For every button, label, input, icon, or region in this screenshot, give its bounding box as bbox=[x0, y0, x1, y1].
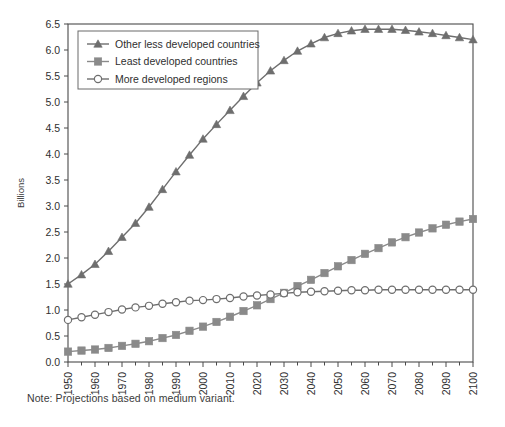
data-point-marker bbox=[226, 294, 233, 301]
data-point-marker bbox=[307, 276, 314, 283]
data-point-marker bbox=[348, 287, 355, 294]
data-point-marker bbox=[132, 304, 139, 311]
data-point-marker bbox=[118, 306, 125, 313]
data-point-marker bbox=[94, 75, 101, 82]
figure-note: Note: Projections based on medium varian… bbox=[27, 392, 235, 404]
data-point-marker bbox=[321, 269, 328, 276]
y-tick-label: 5.0 bbox=[45, 96, 60, 108]
y-tick-label: 3.0 bbox=[45, 200, 60, 212]
data-point-marker bbox=[78, 314, 85, 321]
data-point-marker bbox=[240, 307, 247, 314]
data-point-marker bbox=[91, 311, 98, 318]
y-tick-label: 5.5 bbox=[45, 70, 60, 82]
data-point-marker bbox=[429, 286, 436, 293]
x-tick-label: 2060 bbox=[359, 372, 371, 396]
y-tick-label: 2.5 bbox=[45, 226, 60, 238]
data-point-marker bbox=[388, 286, 395, 293]
data-point-marker bbox=[307, 40, 315, 47]
y-tick-label: 6.0 bbox=[45, 44, 60, 56]
data-point-marker bbox=[186, 297, 193, 304]
data-point-marker bbox=[375, 286, 382, 293]
y-tick-label: 0.5 bbox=[45, 330, 60, 342]
data-point-marker bbox=[199, 297, 206, 304]
y-tick-label: 6.5 bbox=[45, 18, 60, 30]
data-point-marker bbox=[348, 256, 355, 263]
data-point-marker bbox=[402, 234, 409, 241]
y-axis-title: Billions bbox=[15, 178, 26, 208]
data-point-marker bbox=[105, 308, 112, 315]
data-point-marker bbox=[172, 331, 179, 338]
x-tick-label: 2020 bbox=[251, 372, 263, 396]
data-point-marker bbox=[94, 58, 101, 65]
data-point-marker bbox=[64, 348, 71, 355]
data-point-marker bbox=[321, 288, 328, 295]
data-point-marker bbox=[375, 244, 382, 251]
data-point-marker bbox=[199, 323, 206, 330]
x-tick-label: 2030 bbox=[278, 372, 290, 396]
data-point-marker bbox=[253, 292, 260, 299]
series-2 bbox=[64, 215, 476, 355]
series-3 bbox=[64, 286, 476, 323]
data-point-marker bbox=[294, 289, 301, 296]
data-point-marker bbox=[429, 225, 436, 232]
data-point-marker bbox=[240, 293, 247, 300]
data-point-marker bbox=[253, 302, 260, 309]
population-projection-line-chart: 0.00.51.01.52.02.53.03.54.04.55.05.56.06… bbox=[0, 0, 505, 427]
data-point-marker bbox=[456, 286, 463, 293]
data-point-marker bbox=[267, 291, 274, 298]
data-point-marker bbox=[132, 340, 139, 347]
data-point-marker bbox=[64, 316, 71, 323]
data-point-marker bbox=[186, 327, 193, 334]
data-point-marker bbox=[159, 300, 166, 307]
data-point-marker bbox=[307, 288, 314, 295]
data-point-marker bbox=[415, 286, 422, 293]
figure-container: 0.00.51.01.52.02.53.03.54.04.55.05.56.06… bbox=[0, 0, 505, 427]
y-tick-label: 4.5 bbox=[45, 122, 60, 134]
data-point-marker bbox=[361, 287, 368, 294]
data-point-marker bbox=[415, 229, 422, 236]
x-tick-label: 2100 bbox=[467, 372, 479, 396]
data-point-marker bbox=[105, 344, 112, 351]
data-point-marker bbox=[226, 313, 233, 320]
chart-legend: Other less developed countriesLeast deve… bbox=[78, 31, 260, 89]
legend-label: Least developed countries bbox=[115, 55, 238, 67]
data-point-marker bbox=[469, 286, 476, 293]
data-point-marker bbox=[361, 250, 368, 257]
legend-label: More developed regions bbox=[115, 73, 228, 85]
data-point-marker bbox=[469, 215, 476, 222]
series-line bbox=[68, 219, 473, 352]
legend-label: Other less developed countries bbox=[115, 38, 260, 50]
data-point-marker bbox=[388, 239, 395, 246]
y-tick-label: 3.5 bbox=[45, 174, 60, 186]
data-point-marker bbox=[442, 286, 449, 293]
data-point-marker bbox=[402, 286, 409, 293]
data-point-marker bbox=[145, 338, 152, 345]
y-tick-label: 1.0 bbox=[45, 304, 60, 316]
data-point-marker bbox=[213, 318, 220, 325]
y-tick-label: 4.0 bbox=[45, 148, 60, 160]
y-tick-label: 2.0 bbox=[45, 252, 60, 264]
data-point-marker bbox=[145, 302, 152, 309]
data-point-marker bbox=[293, 47, 301, 54]
y-tick-label: 1.5 bbox=[45, 278, 60, 290]
data-point-marker bbox=[442, 221, 449, 228]
data-point-marker bbox=[172, 299, 179, 306]
x-tick-label: 2040 bbox=[305, 372, 317, 396]
x-tick-label: 2070 bbox=[386, 372, 398, 396]
x-tick-label: 2080 bbox=[413, 372, 425, 396]
data-point-marker bbox=[280, 290, 287, 297]
data-point-marker bbox=[78, 347, 85, 354]
data-point-marker bbox=[159, 334, 166, 341]
data-point-marker bbox=[334, 287, 341, 294]
x-tick-label: 2090 bbox=[440, 372, 452, 396]
data-point-marker bbox=[334, 263, 341, 270]
y-tick-label: 0.0 bbox=[45, 356, 60, 368]
data-point-marker bbox=[91, 346, 98, 353]
data-point-marker bbox=[118, 342, 125, 349]
data-point-marker bbox=[456, 218, 463, 225]
x-tick-label: 2050 bbox=[332, 372, 344, 396]
data-point-marker bbox=[280, 56, 288, 63]
data-point-marker bbox=[213, 295, 220, 302]
